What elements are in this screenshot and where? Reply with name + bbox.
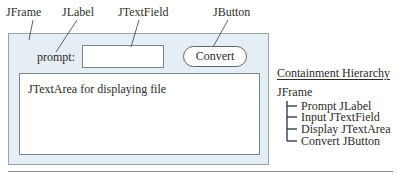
prompt-label: prompt: [37,50,75,64]
convert-button[interactable]: Convert [183,46,247,67]
bottom-divider [8,171,393,172]
callout-jframe: JFrame [6,5,41,19]
hierarchy-root: JFrame [277,85,312,99]
hierarchy-tree-lines [287,101,297,141]
hierarchy-title: Containment Hierarchy [277,66,390,80]
input-text-field[interactable] [82,45,164,68]
display-text-area[interactable]: JTextArea for displaying file [19,73,260,155]
text-area-content: JTextArea for displaying file [28,82,166,96]
callout-jbutton: JButton [213,5,250,19]
callout-jtextfield: JTextField [118,5,169,19]
callout-jlabel: JLabel [62,5,94,19]
hierarchy-item-convert-jbutton: Convert JButton [301,135,380,147]
